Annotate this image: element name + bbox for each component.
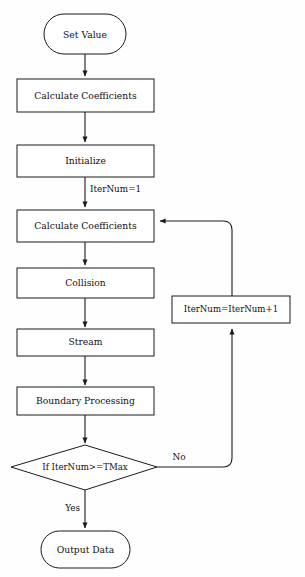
node-initialize[interactable]: Initialize (17, 145, 154, 177)
node-boundary-processing-label: Boundary Processing (36, 395, 135, 406)
node-stream-label: Stream (68, 336, 102, 347)
node-stream[interactable]: Stream (17, 329, 154, 356)
node-boundary-processing[interactable]: Boundary Processing (17, 387, 154, 415)
edge-label-iternum-init: IterNum=1 (90, 184, 141, 194)
node-decision[interactable]: If IterNum>=TMax (11, 445, 157, 490)
edge-label-no: No (173, 452, 186, 462)
edge-label-yes: Yes (64, 503, 80, 513)
edge-increment-to-calc2 (160, 221, 232, 296)
node-start[interactable]: Set Value (44, 14, 126, 54)
node-collision-label: Collision (65, 277, 106, 288)
node-collision[interactable]: Collision (17, 268, 154, 298)
flowchart-svg: Set Value Calculate Coefficients Initial… (0, 0, 305, 577)
node-initialize-label: Initialize (65, 155, 106, 166)
node-start-label: Set Value (63, 29, 107, 40)
node-calc-coeff-2[interactable]: Calculate Coefficients (17, 210, 154, 242)
node-calc-coeff-2-label: Calculate Coefficients (34, 220, 137, 231)
node-end[interactable]: Output Data (41, 531, 130, 568)
node-decision-label: If IterNum>=TMax (42, 462, 128, 472)
node-end-label: Output Data (57, 544, 115, 555)
node-calc-coeff-1-label: Calculate Coefficients (34, 90, 137, 101)
flowchart-canvas: Set Value Calculate Coefficients Initial… (0, 0, 305, 577)
node-increment[interactable]: IterNum=IterNum+1 (172, 296, 290, 323)
node-calc-coeff-1[interactable]: Calculate Coefficients (17, 79, 154, 112)
edge-decision-no-to-increment (157, 329, 232, 467)
node-increment-label: IterNum=IterNum+1 (184, 304, 278, 314)
